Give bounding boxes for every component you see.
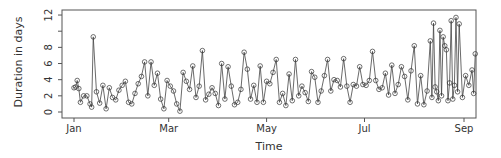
x-axis-title: Time <box>255 140 283 153</box>
y-tick-label: 2 <box>43 93 54 99</box>
y-tick-label: 0 <box>43 109 54 115</box>
x-tick-label: Sep <box>455 123 474 134</box>
time-series-chart: 0246812 JanMarMayJulSep Time Duration in… <box>0 0 501 158</box>
x-axis: JanMarMayJulSep <box>65 118 473 134</box>
x-tick-label: Jul <box>357 123 370 134</box>
x-tick-label: Mar <box>159 123 179 134</box>
data-series <box>72 15 478 113</box>
series-line <box>74 17 475 111</box>
y-axis: 0246812 <box>43 9 62 116</box>
y-axis-title: Duration in days <box>12 16 25 107</box>
x-tick-label: May <box>256 123 277 134</box>
plot-area <box>62 10 476 118</box>
y-tick-label: 12 <box>43 9 54 22</box>
y-tick-label: 4 <box>43 76 54 82</box>
y-tick-label: 6 <box>43 60 54 66</box>
y-tick-label: 8 <box>43 44 54 50</box>
x-tick-label: Jan <box>65 123 81 134</box>
